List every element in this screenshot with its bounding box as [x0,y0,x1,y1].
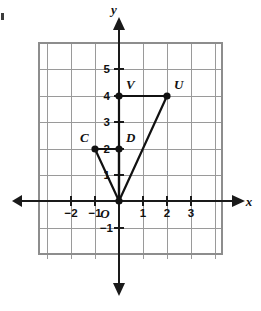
point-label-U: U [174,77,184,92]
vertex-dot-O [115,197,122,204]
origin-label-O: O [100,206,110,221]
y-tick-label-4: 4 [104,90,111,102]
x-axis-label: x [245,194,253,209]
vertex-dot-C [91,145,98,152]
point-label-V: V [126,77,136,92]
point-label-C: C [80,130,89,145]
point-label-D: D [125,130,136,145]
coordinate-plane-svg: −2 −1 1 2 3 5 4 3 2 1 −1 V U C D O x y [0,0,261,311]
y-tick-label--1: −1 [100,222,114,234]
grid-lines [39,43,222,259]
y-axis-arrow-up-icon [113,17,125,30]
vertex-dot-V [115,92,122,99]
x-axis-arrow-left-icon [12,195,22,207]
y-axis-label: y [109,2,117,17]
x-tick-label-2: 2 [164,207,170,219]
coordinate-plane-figure: −2 −1 1 2 3 5 4 3 2 1 −1 V U C D O x y [0,0,261,311]
vertex-dot-U [163,92,170,99]
y-tick-label-3: 3 [104,116,110,128]
x-axis-arrow-icon [232,195,245,207]
vertex-dot-D [115,145,122,152]
y-tick-label-1: 1 [104,169,111,181]
y-tick-label-5: 5 [104,63,111,75]
y-tick-label-2: 2 [104,143,110,155]
x-tick-label-1: 1 [140,207,147,219]
y-axis-arrow-down-icon [113,283,125,296]
x-tick-label-3: 3 [188,207,194,219]
x-tick-label--2: −2 [64,207,77,219]
